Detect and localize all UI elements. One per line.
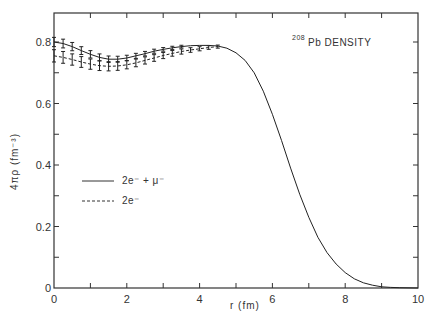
x-tick-label: 6 [269,293,275,305]
density-chart: 024681000.20.40.60.8 2e⁻ + μ⁻ 2e⁻ 208 Pb… [0,0,433,321]
y-tick-label: 0.6 [36,98,51,110]
annotation-superscript: 208 [292,34,305,41]
y-tick-label: 0.8 [36,36,51,48]
x-tick-label: 0 [51,293,57,305]
y-tick-label: 0.4 [36,159,51,171]
x-axis-title: r (fm) [230,300,260,311]
series-line-0 [54,42,418,288]
x-tick-label: 10 [412,293,424,305]
y-axis-title: 4πρ (fm⁻³) [9,133,20,190]
y-tick-label: 0.2 [36,221,51,233]
y-tick-label: 0 [45,282,51,294]
legend-label-muon: 2e⁻ + μ⁻ [122,175,164,186]
annotation: 208 Pb DENSITY [292,34,371,48]
x-tick-label: 8 [342,293,348,305]
axis-ticks: 024681000.20.40.60.8 [36,13,424,305]
data-series [52,37,418,288]
plot-frame [54,13,418,288]
legend: 2e⁻ + μ⁻ 2e⁻ [82,175,164,206]
annotation-text: Pb DENSITY [308,37,371,48]
x-tick-label: 2 [124,293,130,305]
plot-border [54,13,418,288]
legend-label-electron: 2e⁻ [122,195,140,206]
x-tick-label: 4 [197,293,203,305]
